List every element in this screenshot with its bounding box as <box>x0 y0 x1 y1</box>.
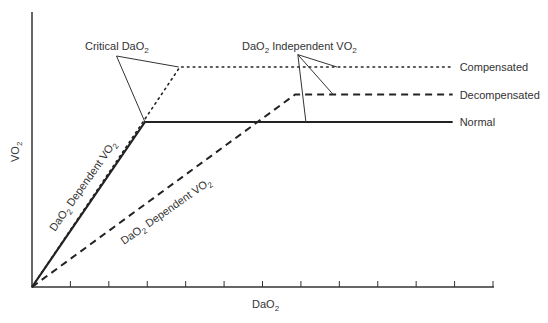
text-part: DaO <box>118 224 144 247</box>
legend-label-normal: Normal <box>460 116 495 128</box>
series-line-normal <box>32 122 453 287</box>
annotation-label-dependent-normal: DaO2 Dependent VO2 <box>47 138 121 235</box>
annotation-label-critical: Critical DaO2 <box>85 40 149 55</box>
text-part: Dependent VO <box>140 178 209 232</box>
text-part: DaO <box>242 40 265 52</box>
series-layer: CompensatedDecompensatedNormal <box>32 61 540 287</box>
x-axis-label: DaO2 <box>252 298 280 313</box>
x-axis-label-main: DaO <box>252 298 275 310</box>
y-axis-label-sub: 2 <box>15 141 24 146</box>
annotation-label-dependent-decompensated: DaO2 Dependent VO2 <box>118 175 215 249</box>
subscript: 2 <box>352 46 357 55</box>
series-line-decompensated <box>32 95 453 288</box>
annotation-pointer-independent <box>298 55 306 122</box>
y-axis-label-main: VO <box>9 146 21 162</box>
y-axis-label: VO2 <box>9 141 24 162</box>
text-part: Independent VO <box>269 40 353 52</box>
x-ticks <box>70 281 493 287</box>
annotation-pointer-critical <box>117 56 145 122</box>
chart: CompensatedDecompensatedNormal Critical … <box>0 0 548 323</box>
legend-label-compensated: Compensated <box>460 61 528 73</box>
text-part: Critical DaO <box>85 40 145 52</box>
annotation-pointer-critical <box>117 56 179 67</box>
legend-label-decompensated: Decompensated <box>460 89 540 101</box>
subscript: 2 <box>144 46 149 55</box>
annotations-layer: Critical DaO2DaO2 Independent VO2DaO2 De… <box>47 40 357 249</box>
annotation-label-independent: DaO2 Independent VO2 <box>242 40 357 55</box>
x-axis-label-sub: 2 <box>275 304 280 313</box>
